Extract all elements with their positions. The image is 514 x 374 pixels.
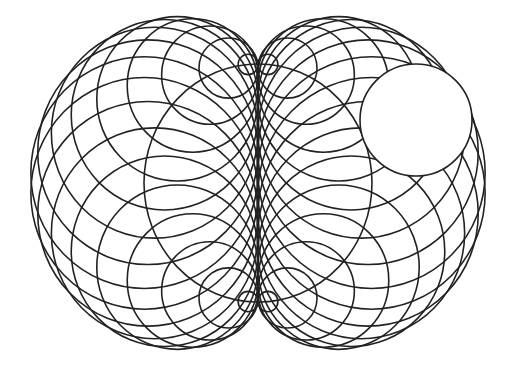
highlight-circle — [360, 64, 472, 176]
nephroid-figure — [0, 0, 514, 374]
